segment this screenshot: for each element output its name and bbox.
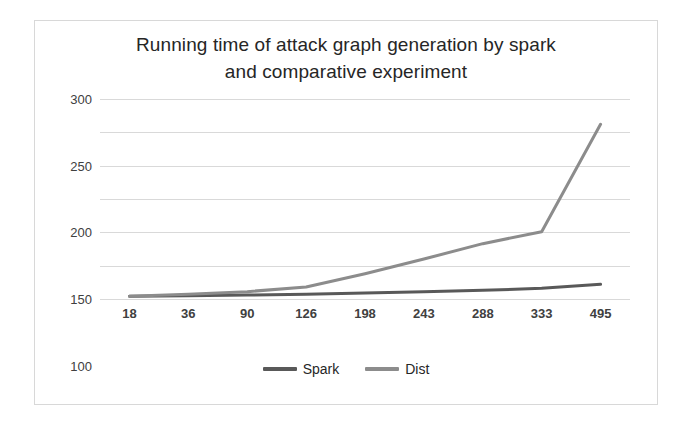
y-axis-tick-label: 250 — [70, 158, 92, 173]
gridline: 0 — [100, 299, 630, 300]
chart-title: Running time of attack graph generation … — [35, 31, 657, 85]
x-axis-labels: 183690126198243288333495 — [100, 306, 630, 326]
x-axis-tick-label: 288 — [453, 306, 512, 326]
chart-title-line-2: and comparative experiment — [35, 58, 657, 85]
legend-label: Dist — [405, 361, 429, 377]
x-axis-tick-label: 333 — [512, 306, 571, 326]
series-line-dist — [129, 124, 600, 296]
legend-item-dist[interactable]: Dist — [365, 361, 429, 377]
chart-container: Running time of attack graph generation … — [34, 20, 658, 405]
legend-label: Spark — [303, 361, 340, 377]
chart-legend: SparkDist — [35, 361, 657, 377]
x-axis-tick-label: 198 — [336, 306, 395, 326]
legend-swatch-icon — [263, 367, 297, 371]
legend-item-spark[interactable]: Spark — [263, 361, 340, 377]
x-axis-tick-label: 36 — [159, 306, 218, 326]
series-lines — [100, 99, 630, 299]
y-axis-tick-label: 150 — [70, 292, 92, 307]
x-axis-tick-label: 126 — [277, 306, 336, 326]
x-axis-tick-label: 90 — [218, 306, 277, 326]
x-axis-tick-label: 243 — [394, 306, 453, 326]
y-axis-tick-label: 300 — [70, 92, 92, 107]
x-axis-tick-label: 18 — [100, 306, 159, 326]
plot-area: 300250200150100500 — [100, 99, 630, 299]
y-axis-tick-label: 200 — [70, 225, 92, 240]
chart-title-line-1: Running time of attack graph generation … — [35, 31, 657, 58]
legend-swatch-icon — [365, 367, 399, 371]
x-axis-tick-label: 495 — [571, 306, 630, 326]
